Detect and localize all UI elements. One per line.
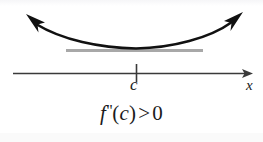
up-right-arrow-icon	[224, 12, 243, 31]
axis-label-x: x	[246, 78, 253, 93]
bottom-edge-band	[0, 133, 263, 142]
up-left-arrow-icon	[26, 14, 45, 33]
tick-label-c: c	[130, 76, 138, 93]
formula-argument: c	[119, 101, 129, 125]
formula-operator: >	[136, 101, 152, 125]
formula-value: 0	[152, 101, 163, 125]
second-derivative-formula: f"(c)>0	[0, 101, 263, 126]
concavity-diagram: c x f"(c)>0	[0, 0, 263, 142]
parabola-curve	[26, 12, 243, 49]
